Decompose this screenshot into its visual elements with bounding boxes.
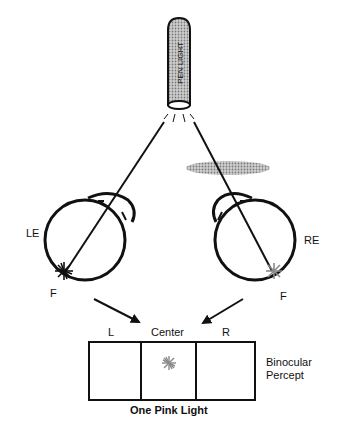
binocular-label-line1: Binocular <box>266 356 312 368</box>
left-eye-label: LE <box>26 227 39 239</box>
fovea-spot-right <box>266 263 282 279</box>
left-fovea-label: F <box>50 287 57 299</box>
pen-light-label: PEN LIGHT <box>176 42 185 84</box>
arrow-right-to-percept <box>203 299 243 323</box>
left-eye <box>45 122 164 280</box>
binocular-diagram: PEN LIGHT LE F <box>0 0 342 427</box>
right-eye <box>194 122 295 280</box>
light-rays <box>164 114 194 122</box>
right-fovea-label: F <box>280 290 287 302</box>
right-eye-label: RE <box>304 234 319 246</box>
arrow-left-to-percept <box>94 299 139 322</box>
binocular-percept-box <box>89 342 255 400</box>
pen-light: PEN LIGHT <box>168 18 190 109</box>
region-label-left: L <box>108 326 114 338</box>
region-label-right: R <box>222 326 230 338</box>
binocular-label-line2: Percept <box>266 369 304 381</box>
region-label-center: Center <box>151 326 184 338</box>
pink-light-spot <box>162 356 176 370</box>
filter-ellipse <box>186 161 270 175</box>
caption: One Pink Light <box>130 404 208 416</box>
